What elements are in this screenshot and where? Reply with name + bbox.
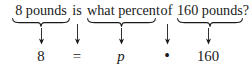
word-problem-translation-figure: 8 pounds is what percent of 160 pounds?: [0, 0, 251, 68]
equation-variable-p: p: [101, 45, 141, 67]
mapping-arrow-percent: [117, 28, 126, 45]
equation-equals-sign: =: [57, 45, 97, 67]
sentence-token-of: of: [159, 0, 174, 20]
equation-term-part: 8: [21, 45, 61, 67]
sentence-token-base: 160 pounds?: [177, 0, 243, 20]
underbrace-percent: [87, 18, 156, 27]
equation-term-base: 160: [188, 45, 228, 67]
mapping-arrow-is: [73, 24, 82, 45]
mapping-arrow-base: [204, 28, 213, 45]
problem-sentence: 8 pounds is what percent of 160 pounds?: [0, 0, 251, 20]
sentence-token-percent: what percent: [87, 0, 156, 20]
underbrace-base: [177, 18, 243, 27]
sentence-token-quantity: 8 pounds: [13, 0, 69, 20]
mapping-arrow-quantity: [37, 28, 46, 45]
underbrace-quantity: [12, 18, 70, 27]
mapping-arrow-of: [163, 24, 172, 45]
translated-equation: 8 = p • 160: [0, 45, 251, 68]
sentence-token-is: is: [70, 0, 84, 20]
equation-multiplication-dot: •: [147, 45, 187, 67]
